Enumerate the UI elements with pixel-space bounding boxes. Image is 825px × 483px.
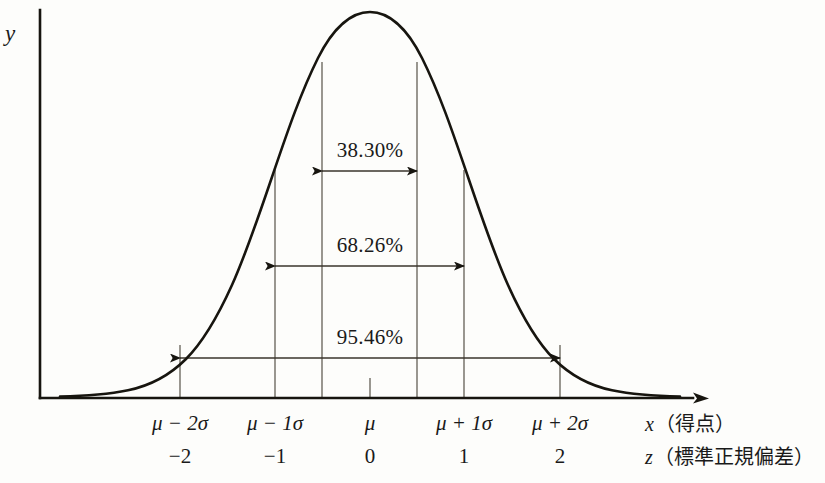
y-axis-label: y xyxy=(5,22,15,45)
z-axis-caption: z（標準正規偏差） xyxy=(645,447,814,467)
tick-label-plus-2sigma: μ + 2σ xyxy=(532,413,588,434)
tick-label-minus-2sigma: μ − 2σ xyxy=(152,413,208,434)
label-68-26-percent: 68.26% xyxy=(337,235,404,256)
z-axis-variable: z xyxy=(645,446,654,468)
x-axis-note: （得点） xyxy=(655,413,735,435)
x-axis-caption: x（得点） xyxy=(645,414,735,434)
z-label-minus-1: −1 xyxy=(264,446,286,467)
distribution-plot xyxy=(0,0,825,483)
z-label-minus-2: −2 xyxy=(169,446,191,467)
z-label-plus-1: 1 xyxy=(459,446,470,467)
label-95-46-percent: 95.46% xyxy=(337,327,404,348)
label-38-30-percent: 38.30% xyxy=(337,140,404,161)
tick-label-plus-1sigma: μ + 1σ xyxy=(436,413,492,434)
z-axis-note: （標準正規偏差） xyxy=(654,446,814,468)
x-axis-arrowhead xyxy=(693,393,709,404)
z-label-zero: 0 xyxy=(365,446,376,467)
tick-label-minus-1sigma: μ − 1σ xyxy=(247,413,303,434)
tick-label-mu: μ xyxy=(365,413,376,434)
normal-distribution-figure: y 38.30% 68.26% 95.46% μ − 2σ μ − 1σ μ μ… xyxy=(0,0,825,483)
x-axis-variable: x xyxy=(645,413,655,435)
z-label-plus-2: 2 xyxy=(555,446,566,467)
